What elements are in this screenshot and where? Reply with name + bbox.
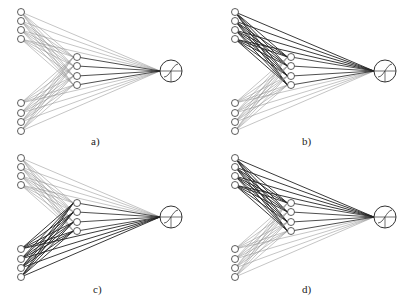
hidden-node — [74, 200, 81, 207]
edge-input-hidden — [235, 203, 288, 259]
edge-input-output — [235, 217, 374, 277]
input-node — [18, 173, 25, 180]
input-node — [232, 36, 239, 43]
panel-c — [18, 155, 183, 281]
edge-input-hidden — [21, 39, 74, 76]
input-node — [232, 164, 239, 171]
edge-input-hidden — [21, 167, 74, 203]
edge-input-output — [21, 176, 160, 217]
output-neuron-sigmoid-icon — [374, 206, 396, 228]
hidden-node — [288, 228, 295, 235]
edge-input-hidden — [235, 212, 288, 277]
hidden-node — [288, 54, 295, 61]
input-node — [18, 110, 25, 117]
input-node — [18, 128, 25, 135]
panel-b — [232, 9, 397, 135]
hidden-node — [288, 82, 295, 89]
edge-input-hidden — [235, 57, 288, 113]
output-neuron-sigmoid-icon — [374, 60, 396, 82]
caption-c: c) — [93, 283, 102, 295]
edge-input-hidden — [21, 185, 74, 222]
input-node — [18, 119, 25, 126]
edge-input-output — [21, 39, 160, 71]
hidden-node — [74, 63, 81, 70]
neural-network-figure — [0, 0, 408, 302]
input-node — [18, 164, 25, 171]
edge-input-hidden — [21, 12, 74, 57]
edge-input-output — [21, 12, 160, 71]
input-node — [18, 100, 25, 107]
input-node — [232, 256, 239, 263]
edge-input-hidden — [21, 76, 74, 113]
connections — [235, 158, 374, 277]
input-node — [18, 246, 25, 253]
edge-input-hidden — [235, 167, 288, 203]
edge-input-output — [235, 185, 374, 217]
output-neuron-sigmoid-icon — [160, 206, 182, 228]
edge-input-hidden — [21, 66, 74, 131]
input-node — [18, 36, 25, 43]
input-node — [232, 246, 239, 253]
input-node — [18, 274, 25, 281]
hidden-node — [288, 209, 295, 216]
edge-input-output — [235, 39, 374, 71]
edge-input-hidden — [235, 21, 288, 57]
input-node — [232, 182, 239, 189]
input-node — [18, 256, 25, 263]
hidden-node — [74, 82, 81, 89]
hidden-node — [74, 73, 81, 80]
edge-input-hidden — [21, 185, 74, 203]
edge-input-output — [21, 30, 160, 71]
input-node — [232, 173, 239, 180]
input-node — [232, 18, 239, 25]
edge-input-hidden — [21, 57, 74, 113]
edge-input-hidden — [21, 85, 74, 131]
panel-a — [18, 9, 183, 135]
hidden-node — [288, 219, 295, 226]
input-node — [232, 27, 239, 34]
connections — [235, 12, 374, 131]
hidden-node — [74, 228, 81, 235]
input-node — [18, 182, 25, 189]
output-neuron-sigmoid-icon — [160, 60, 182, 82]
hidden-node — [74, 54, 81, 61]
panel-d — [232, 155, 397, 281]
caption-d: d) — [302, 283, 311, 295]
hidden-node — [288, 73, 295, 80]
edge-input-output — [21, 71, 160, 131]
hidden-node — [74, 209, 81, 216]
caption-a: a) — [91, 135, 100, 147]
edge-input-output — [235, 30, 374, 71]
connections — [21, 158, 160, 277]
input-node — [232, 274, 239, 281]
edge-input-hidden — [21, 158, 74, 203]
input-node — [232, 128, 239, 135]
hidden-node — [288, 63, 295, 70]
edge-input-hidden — [235, 66, 288, 131]
input-node — [18, 27, 25, 34]
edge-input-hidden — [235, 76, 288, 113]
input-node — [18, 9, 25, 16]
edge-input-output — [21, 158, 160, 217]
hidden-node — [74, 219, 81, 226]
caption-b: b) — [302, 135, 311, 147]
edge-input-output — [21, 185, 160, 217]
connections — [21, 12, 160, 131]
edge-input-output — [235, 71, 374, 131]
input-node — [18, 265, 25, 272]
input-node — [232, 119, 239, 126]
edge-input-hidden — [235, 85, 288, 131]
input-node — [232, 100, 239, 107]
input-node — [232, 9, 239, 16]
input-node — [232, 110, 239, 117]
input-node — [232, 265, 239, 272]
input-node — [18, 155, 25, 162]
edge-input-hidden — [235, 39, 288, 57]
edge-input-output — [235, 176, 374, 217]
edge-input-hidden — [21, 21, 74, 57]
edge-input-hidden — [235, 222, 288, 259]
input-node — [232, 155, 239, 162]
hidden-node — [288, 200, 295, 207]
edge-input-hidden — [235, 231, 288, 277]
input-node — [18, 18, 25, 25]
